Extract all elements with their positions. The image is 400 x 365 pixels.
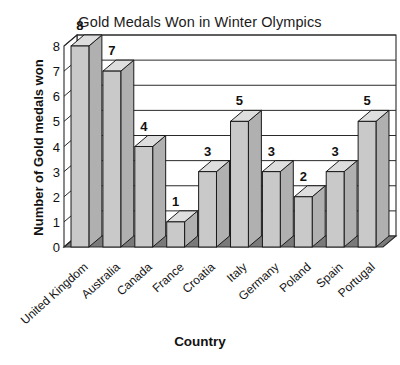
bar-side-face bbox=[89, 35, 102, 247]
bar-group[interactable] bbox=[231, 110, 262, 247]
bar-front-face[interactable] bbox=[358, 121, 376, 247]
bar-group[interactable] bbox=[103, 60, 134, 247]
bar-value-label: 5 bbox=[359, 94, 375, 107]
bar-group[interactable] bbox=[135, 136, 166, 248]
bar-front-face[interactable] bbox=[103, 71, 121, 247]
y-tick-label: 1 bbox=[44, 216, 60, 229]
bar-front-face[interactable] bbox=[294, 197, 312, 247]
bar-front-face[interactable] bbox=[167, 222, 185, 247]
bar-front-face[interactable] bbox=[231, 121, 249, 247]
bar-group[interactable] bbox=[262, 161, 293, 247]
bar-side-face bbox=[216, 161, 229, 247]
bar-side-face bbox=[153, 136, 166, 248]
x-axis-title: Country bbox=[0, 334, 400, 349]
bar-value-label: 4 bbox=[136, 120, 152, 133]
y-tick-label: 0 bbox=[44, 241, 60, 254]
bar-group[interactable] bbox=[326, 161, 357, 247]
bar-value-label: 3 bbox=[263, 145, 279, 158]
y-tick-label: 8 bbox=[44, 40, 60, 53]
bar-front-face[interactable] bbox=[199, 172, 217, 247]
y-tick-label: 6 bbox=[44, 90, 60, 103]
bar-value-label: 3 bbox=[200, 145, 216, 158]
bar-front-face[interactable] bbox=[262, 172, 280, 247]
bar-group[interactable] bbox=[199, 161, 230, 247]
bar-value-label: 5 bbox=[231, 94, 247, 107]
bar-chart: Gold Medals Won in Winter Olympics Numbe… bbox=[0, 0, 400, 365]
bar-group[interactable] bbox=[294, 186, 325, 247]
bar-group[interactable] bbox=[71, 35, 102, 247]
bar-side-face bbox=[376, 110, 389, 247]
bar-value-label: 3 bbox=[327, 145, 343, 158]
y-tick-label: 5 bbox=[44, 115, 60, 128]
bar-front-face[interactable] bbox=[135, 147, 153, 248]
bar-side-face bbox=[248, 110, 261, 247]
bar-value-label: 2 bbox=[295, 170, 311, 183]
bar-value-label: 8 bbox=[72, 19, 88, 32]
bar-front-face[interactable] bbox=[326, 172, 344, 247]
y-tick-label: 4 bbox=[44, 141, 60, 154]
bar-side-face bbox=[121, 60, 134, 247]
chart-title: Gold Medals Won in Winter Olympics bbox=[0, 14, 400, 30]
bar-front-face[interactable] bbox=[71, 46, 89, 247]
bar-side-face bbox=[280, 161, 293, 247]
bar-group[interactable] bbox=[358, 110, 389, 247]
bar-value-label: 7 bbox=[104, 44, 120, 57]
bar-value-label: 1 bbox=[168, 195, 184, 208]
bar-side-face bbox=[344, 161, 357, 247]
y-tick-label: 2 bbox=[44, 191, 60, 204]
y-tick-label: 7 bbox=[44, 65, 60, 78]
y-tick-label: 3 bbox=[44, 166, 60, 179]
